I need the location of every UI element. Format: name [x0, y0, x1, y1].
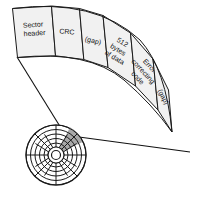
band-segment-crc: CRC [52, 6, 84, 60]
callout-line-right [79, 137, 190, 152]
disk-platter [26, 125, 86, 185]
band-segment-sector-header: Sector header [13, 6, 56, 58]
sector-band: Sector header CRC (gap) [13, 6, 173, 132]
platter-spindle-hole [52, 151, 61, 160]
segment-label: CRC [59, 27, 75, 35]
disk-sector-diagram: Sector header CRC (gap) [0, 0, 218, 203]
band-segment-data: 512 bytes of data [103, 16, 136, 87]
sector-diagram-canvas: Sector header CRC (gap) [0, 0, 218, 203]
